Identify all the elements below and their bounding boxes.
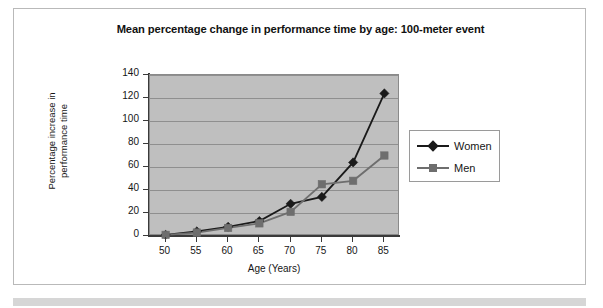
data-point-men-85 [381, 152, 388, 159]
y-axis-title-line2: performance time [58, 104, 69, 178]
data-point-women-70 [286, 199, 295, 208]
figure-frame: Mean percentage change in performance ti… [13, 8, 586, 285]
y-axis-tick-label: 100 [23, 113, 143, 124]
y-axis-tick-label: 60 [23, 159, 143, 170]
data-point-men-80 [349, 177, 356, 184]
legend-swatch-men [415, 161, 451, 175]
x-axis-title: Age (Years) [149, 263, 399, 274]
y-axis-tick-label: 140 [23, 67, 143, 78]
plot-area [149, 74, 399, 235]
x-axis-tick [165, 237, 166, 242]
y-axis-tick-label: 120 [23, 90, 143, 101]
x-axis-tick-label: 85 [363, 245, 403, 256]
series-line-men [166, 156, 385, 235]
legend-marker-square-icon [429, 164, 437, 172]
y-axis-tick [143, 120, 148, 121]
y-axis-tick-label: 80 [23, 136, 143, 147]
data-point-men-50 [162, 231, 169, 238]
y-axis-tick [143, 189, 148, 190]
x-axis-tick [258, 237, 259, 242]
y-axis-tick-label: 20 [23, 205, 143, 216]
x-axis-tick [321, 237, 322, 242]
y-axis-tick [143, 235, 148, 236]
x-axis-tick [383, 237, 384, 242]
y-axis-tick-label: 40 [23, 182, 143, 193]
data-point-men-70 [287, 208, 294, 215]
x-axis-tick [196, 237, 197, 242]
legend-swatch-women [415, 139, 451, 153]
y-axis-title-line1: Percentage increase in [46, 92, 57, 189]
y-axis-title: Percentage increase in performance time [46, 66, 70, 216]
y-axis-tick [143, 212, 148, 213]
x-axis-tick [290, 237, 291, 242]
legend-item-women[interactable]: Women [410, 135, 499, 157]
data-point-men-60 [224, 224, 231, 231]
legend-marker-diamond-icon [427, 140, 438, 151]
legend-item-men[interactable]: Men [410, 157, 499, 179]
y-axis-tick [143, 97, 148, 98]
legend-label: Women [454, 140, 492, 152]
y-axis-tick [143, 166, 148, 167]
chart-legend: WomenMen [409, 130, 500, 182]
plot-series-svg [150, 75, 400, 236]
y-axis-tick [143, 143, 148, 144]
legend-label: Men [454, 162, 475, 174]
data-point-men-75 [318, 181, 325, 188]
data-point-women-85 [380, 89, 389, 98]
y-axis-tick-labels: 020406080100120140 [14, 9, 143, 308]
x-axis-tick [352, 237, 353, 242]
data-point-men-55 [193, 229, 200, 236]
bottom-strip [13, 298, 586, 306]
y-axis-tick [143, 74, 148, 75]
data-point-men-65 [256, 220, 263, 227]
y-axis-tick-label: 0 [23, 228, 143, 239]
x-axis-tick [227, 237, 228, 242]
